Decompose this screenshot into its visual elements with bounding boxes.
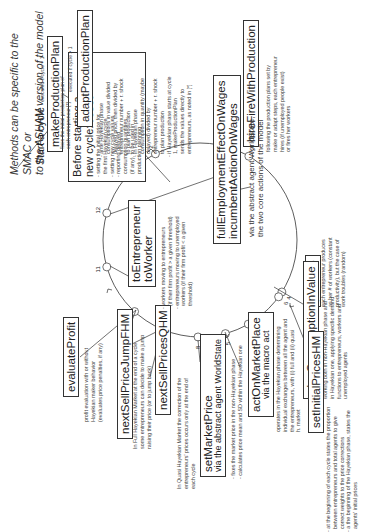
step-note-line: consumption in quantity (maybe <box>139 76 146 157</box>
step6-setInitialPricesHM: setInitialPricesHM <box>308 331 324 433</box>
step11-name2: toWorker <box>142 205 154 282</box>
step-note-line: entrepreneurs, as noted in [*] <box>186 76 193 157</box>
step-note-line: entrepreneur number + r. shock <box>152 76 159 157</box>
step-note-line: the two core actions of the model <box>256 117 265 237</box>
arrow-10-11 <box>107 289 112 293</box>
step8-subtitle: via the abstract agent WorldState <box>214 339 223 472</box>
step-note-line: In Full Hayekian Market at the end of a … <box>132 335 139 449</box>
step-note-line: - fixes the market price in the non-Haye… <box>230 345 237 479</box>
step-note-line: - if Hayekian phase starts at cycle <box>166 76 173 157</box>
step-note-line: entrepreneurs' prices occurs only at the… <box>183 378 190 489</box>
step6-notes: - at the beginning of each cycle states … <box>325 407 359 532</box>
step-note-line: - a the beginning of the Hayekian phase,… <box>345 407 352 532</box>
step-note-line: correct weights to the price corrections <box>339 407 346 532</box>
step12-wages-actions: fullEmploymentEffectOnWages incumbentAct… <box>213 75 241 244</box>
step-note-line: consumptions in value divided <box>105 76 112 157</box>
step-note-line: (if their firm profit > a given threshol… <box>167 216 174 309</box>
step-note-line: hires (if unemployed people exist) <box>279 56 286 152</box>
step9-full-notes: In Full Hayekian Market at the end of a … <box>132 335 152 449</box>
step-note-line: following the production plans set by <box>265 56 272 152</box>
step8-notes: - fixes the market price in the non-Haye… <box>230 345 244 479</box>
step-note-line: functions to entrepreneurs, workers and <box>336 297 343 399</box>
step-note-line: between entrepreneurs and total agents t… <box>332 407 339 532</box>
step-note-line: operates in the Hayekian phase determini… <box>275 319 282 432</box>
step9-quasi-notes: In Quasi Hayekian Market the correction … <box>176 378 196 489</box>
step-note-line: make or adapt steps, each entrepreneur <box>272 56 279 152</box>
step-note-line: 1, makeProductionPlan <box>172 76 179 157</box>
step-note-line: delayed) divided by <box>145 76 152 157</box>
step-note-line: h. market <box>295 319 302 432</box>
cycle-step-marker-11 <box>103 263 111 271</box>
step-note-line: Hayekian maker behavior <box>90 343 97 422</box>
step-note-line: or fires her workers <box>285 56 292 152</box>
step9-nextSellPricesQHM: nextSellPricesQHM <box>155 305 171 415</box>
step7-actOnMarketPlace: actOnMarketPlace via the macro act <box>248 312 274 417</box>
cycle-step-number-11: 11 <box>95 266 101 273</box>
step10-notes: profit evaluation with or withoutHayekia… <box>83 343 103 422</box>
step11-toEntrepreneur-toWorker: toEntrepreneur toWorker <box>128 200 156 287</box>
step-note-line: each cycle <box>190 378 197 489</box>
step1-condition: executed if cycle = 1 <box>39 57 45 102</box>
step7-subtitle: via the macro act <box>262 317 271 412</box>
step-note-line: - ante Hayekian phase <box>98 76 105 157</box>
step-note-line: - entrepreneurs moving to unemployed <box>174 216 181 309</box>
cycle-step-marker-12 <box>103 209 111 217</box>
step-note-line: workers (if their firm profit < a given <box>180 216 187 309</box>
step10-evaluateProfit: evaluateProfit <box>63 317 79 397</box>
step-note-line: profit evaluation with or without <box>83 343 90 422</box>
step5-notes: working both in non-Hayekian phase andin… <box>322 297 349 399</box>
step-note-line: to plan production <box>159 76 166 157</box>
step-note-line: (evaluates price penalties, if any) <box>97 343 104 422</box>
step3-notes: following the production plans set bymak… <box>265 56 292 152</box>
step-note-line: via the abstract agent WorldState, <box>247 117 256 237</box>
step12-name2: incumbentActionOnWages <box>227 80 239 239</box>
step-note-line: some entrepreneurs can decide to make a … <box>139 335 146 449</box>
step12-name: fullEmploymentEffectOnWages <box>215 80 227 239</box>
cycle-step-number-12: 12 <box>95 206 101 213</box>
connector-11 <box>110 266 130 277</box>
step12-notes: via the abstract agent WorldState,the tw… <box>247 117 265 237</box>
step8-setMarketPrice: setMarketPrice via the abstract agent Wo… <box>200 334 226 477</box>
step-note-line: - in Hayekian phase <box>132 76 139 157</box>
step-note-line: In Quasi Hayekian Market the correction … <box>176 378 183 489</box>
cycle-step-number-6: 6 <box>283 301 289 305</box>
step-note-line: - workers moving to entrepreneurs <box>160 216 167 309</box>
cycle-step-marker-6 <box>275 293 283 301</box>
step7-notes: operates in the Hayekian phase determini… <box>275 319 302 432</box>
title-line-1: Methods can be specific to the SMAC or <box>8 0 33 175</box>
step2-condition: executed if cycle > 1 <box>67 47 73 92</box>
step2-notes: - ante Hayekian phase consumptions in va… <box>98 76 193 157</box>
step-note-line: in Hayekian one, applying specific deman… <box>329 297 336 399</box>
step-note-line: the entrepreneurs, with (i) full and (ii… <box>289 319 296 432</box>
step-note-line: - at the beginning of each cycle states … <box>325 407 332 532</box>
start-cycle-label: Start a cycle <box>34 107 46 165</box>
step-note-line: entrepreneur number + r. shock <box>118 76 125 157</box>
step11-name: toEntrepreneur <box>130 205 142 282</box>
connector-12 <box>110 177 215 214</box>
step-note-line: to plan production <box>125 76 132 157</box>
step-note-line: delayed price, then divided by <box>112 76 119 157</box>
step-note-line: threshold) <box>187 216 194 309</box>
step-note-line: agents' initial prices <box>352 407 359 532</box>
step-note-line: unemployed agents <box>342 297 349 399</box>
step-note-line: - calculates price mean and SD within th… <box>237 345 244 479</box>
step-note-line: sends the values directly to <box>179 76 186 157</box>
step11-notes: - workers moving to entrepreneurs (if th… <box>160 216 194 309</box>
reset-heading-prefix: new cycle: <box>83 123 95 177</box>
step2-adaptProductionPlan: adaptProductionPlan <box>77 10 93 127</box>
step-note-line: individual exchanges between all the age… <box>282 319 289 432</box>
step-note-line: raising their price (or to jump back) <box>146 335 153 449</box>
step9-nextSellPriceJumpFHM: nextSellPriceJumpFHM <box>117 309 133 439</box>
